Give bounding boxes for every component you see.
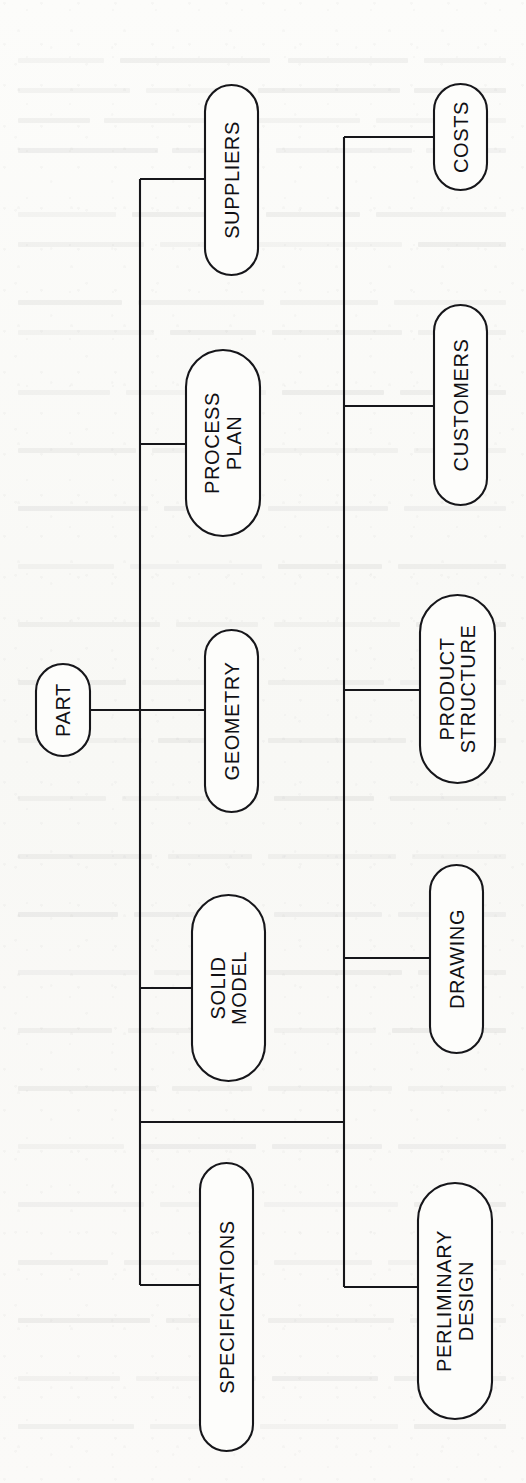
node-label-costs: COSTS (450, 101, 472, 173)
node-label-line: PLAN (223, 416, 245, 471)
diagram-node-process-plan[interactable]: PROCESSPLAN (186, 350, 260, 536)
diagram-node-specifications[interactable]: SPECIFICATIONS (200, 1163, 253, 1451)
node-label-drawing: DRAWING (446, 909, 468, 1009)
diagram-node-solid-model[interactable]: SOLIDMODEL (192, 895, 265, 1081)
node-label-line: SUPPLIERS (221, 121, 243, 239)
node-label-geometry: GEOMETRY (221, 662, 243, 781)
node-label-customers: CUSTOMERS (450, 339, 472, 472)
scanned-page: PARTSUPPLIERSPROCESSPLANGEOMETRYSOLIDMOD… (0, 0, 526, 1483)
diagram-node-drawing[interactable]: DRAWING (430, 865, 483, 1053)
diagram-nodes: PARTSUPPLIERSPROCESSPLANGEOMETRYSOLIDMOD… (36, 84, 495, 1451)
diagram-node-geometry[interactable]: GEOMETRY (205, 630, 258, 812)
node-label-line: SPECIFICATIONS (216, 1220, 238, 1394)
node-label-line: PRODUCT (436, 637, 458, 740)
node-label-line: STRUCTURE (457, 625, 479, 754)
node-label-line: PROCESS (201, 392, 223, 494)
node-label-line: MODEL (228, 951, 250, 1025)
connector-lines (90, 137, 434, 1287)
node-label-solid-model: SOLIDMODEL (207, 951, 250, 1025)
node-label-line: DRAWING (446, 909, 468, 1009)
diagram-node-perliminary-design[interactable]: PERLIMINARYDESIGN (418, 1183, 492, 1419)
diagram-node-product-structure[interactable]: PRODUCTSTRUCTURE (420, 595, 495, 783)
part-data-model-diagram: PARTSUPPLIERSPROCESSPLANGEOMETRYSOLIDMOD… (0, 0, 526, 1483)
node-label-line: GEOMETRY (221, 662, 243, 781)
diagram-node-suppliers[interactable]: SUPPLIERS (205, 85, 258, 275)
node-label-suppliers: SUPPLIERS (221, 121, 243, 239)
node-label-product-structure: PRODUCTSTRUCTURE (436, 625, 479, 754)
node-label-line: PART (52, 683, 74, 737)
diagram-node-costs[interactable]: COSTS (434, 84, 487, 190)
diagram-node-part[interactable]: PART (36, 664, 90, 756)
diagram-node-customers[interactable]: CUSTOMERS (434, 305, 487, 505)
node-label-line: DESIGN (455, 1261, 477, 1341)
node-label-line: COSTS (450, 101, 472, 173)
node-label-line: CUSTOMERS (450, 339, 472, 472)
node-label-part: PART (52, 683, 74, 737)
node-label-line: PERLIMINARY (433, 1230, 455, 1372)
node-label-specifications: SPECIFICATIONS (216, 1220, 238, 1394)
node-label-line: SOLID (207, 956, 229, 1019)
